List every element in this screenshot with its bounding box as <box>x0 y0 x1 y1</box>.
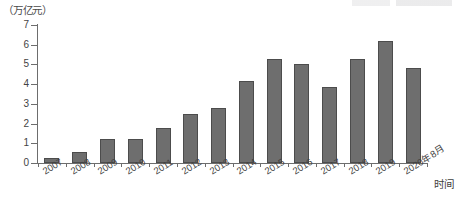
bar <box>322 87 337 163</box>
bar <box>239 81 254 163</box>
bar <box>294 64 309 163</box>
bar <box>350 59 365 163</box>
bar-slot <box>406 25 421 163</box>
bar-slot <box>267 25 282 163</box>
y-axis-tick-label: 4 <box>23 79 29 89</box>
x-axis-tick <box>94 163 95 167</box>
y-axis-tick-label: 2 <box>23 119 29 129</box>
y-axis-tick <box>31 163 37 164</box>
bar-slot <box>239 25 254 163</box>
bar-slot <box>156 25 171 163</box>
bar-slot <box>211 25 226 163</box>
bar-slot <box>322 25 337 163</box>
cropped-text-sliver <box>352 0 452 6</box>
x-axis-tick <box>149 163 150 167</box>
bar-slot <box>378 25 393 163</box>
x-axis-tick <box>121 163 122 167</box>
y-axis-tick <box>31 104 37 105</box>
bar-slot <box>350 25 365 163</box>
y-axis-tick-label: 3 <box>23 99 29 109</box>
x-axis-tick <box>205 163 206 167</box>
x-axis-tick <box>233 163 234 167</box>
x-axis-tick <box>399 163 400 167</box>
bar <box>211 108 226 163</box>
bar <box>267 59 282 163</box>
y-axis-tick-label: 5 <box>23 59 29 69</box>
bar-slot <box>44 25 59 163</box>
y-axis-tick-label: 0 <box>23 158 29 168</box>
bar-chart: （万亿元） 01234567 2007200820092010201120122… <box>0 0 467 221</box>
bar-slot <box>100 25 115 163</box>
x-axis-tick <box>316 163 317 167</box>
bar-slot <box>183 25 198 163</box>
x-axis-title: 时间 <box>434 176 454 191</box>
y-axis-tick-label: 7 <box>23 20 29 30</box>
x-axis-tick <box>66 163 67 167</box>
y-axis-tick <box>31 143 37 144</box>
x-axis-tick <box>38 163 39 167</box>
y-axis-tick <box>31 45 37 46</box>
bar-slot <box>128 25 143 163</box>
y-axis-tick-label: 6 <box>23 40 29 50</box>
bar-series <box>38 25 427 163</box>
y-axis-tick <box>31 25 37 26</box>
plot-area: 01234567 <box>38 25 427 163</box>
x-axis-tick <box>177 163 178 167</box>
x-axis-tick <box>427 163 428 167</box>
x-axis-tick <box>371 163 372 167</box>
x-axis-tick <box>288 163 289 167</box>
y-axis-tick-label: 1 <box>23 138 29 148</box>
x-axis-tick <box>260 163 261 167</box>
bar-slot <box>72 25 87 163</box>
bar <box>378 41 393 163</box>
bar <box>406 68 421 163</box>
y-axis-tick <box>31 84 37 85</box>
y-axis-title: （万亿元） <box>3 2 52 17</box>
bar-slot <box>294 25 309 163</box>
x-axis-tick <box>344 163 345 167</box>
y-axis-tick <box>31 64 37 65</box>
y-axis-tick <box>31 124 37 125</box>
